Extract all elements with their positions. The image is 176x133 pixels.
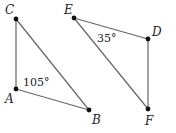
angle-e-label: 35°: [97, 32, 117, 45]
edge-cb: [16, 19, 89, 110]
label-d: D: [151, 25, 162, 39]
label-f: F: [144, 114, 154, 128]
edge-ab: [16, 89, 89, 110]
point-d: [146, 37, 151, 42]
point-f: [146, 107, 151, 112]
point-c: [14, 17, 19, 22]
point-b: [87, 108, 92, 113]
angle-a-label: 105°: [23, 76, 50, 89]
point-a: [14, 87, 19, 92]
label-e: E: [63, 3, 73, 17]
label-a: A: [4, 92, 14, 106]
label-c: C: [5, 3, 14, 17]
label-b: B: [91, 113, 101, 127]
triangle-def: E D F 35°: [63, 3, 162, 128]
diagram-canvas: C A B 105° E D F 35°: [0, 0, 176, 133]
